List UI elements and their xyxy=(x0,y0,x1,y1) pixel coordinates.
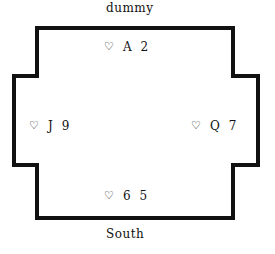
card: A xyxy=(123,40,132,54)
heart-suit-icon: ♡ xyxy=(29,119,39,133)
west-hand: ♡ J 9 xyxy=(29,119,69,133)
heart-suit-icon: ♡ xyxy=(104,189,114,203)
north-label: dummy xyxy=(106,1,153,15)
heart-suit-icon: ♡ xyxy=(104,40,114,54)
card: 5 xyxy=(140,189,148,203)
east-hand: ♡ Q 7 xyxy=(191,119,236,133)
card: J xyxy=(48,119,53,133)
card: Q xyxy=(210,119,220,133)
card: 7 xyxy=(229,119,237,133)
card: 9 xyxy=(62,119,70,133)
north-hand: ♡ A 2 xyxy=(104,40,148,54)
card: 2 xyxy=(141,40,149,54)
south-label: South xyxy=(106,227,144,241)
south-hand: ♡ 6 5 xyxy=(104,189,147,203)
card: 6 xyxy=(123,189,131,203)
heart-suit-icon: ♡ xyxy=(191,119,201,133)
